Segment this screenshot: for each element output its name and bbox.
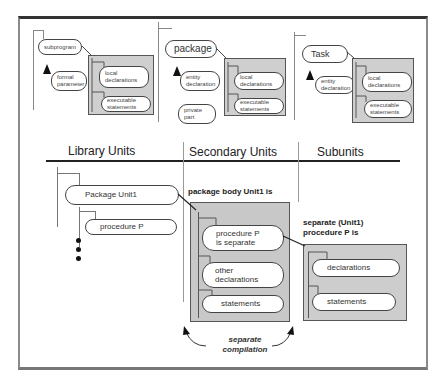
connector-overlay <box>0 0 444 389</box>
